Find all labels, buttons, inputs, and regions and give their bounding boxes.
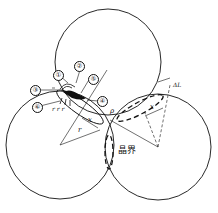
callout-1: ① bbox=[53, 70, 64, 81]
sintering-diagram: ① ② ③ ④ ⑤ ⑥ ρ x x r r r r ΔL 晶界 bbox=[0, 0, 218, 213]
x-left-symbol: x bbox=[88, 117, 92, 124]
callout-6: ⑥ bbox=[32, 102, 43, 113]
delta-l-symbol: ΔL bbox=[173, 82, 181, 88]
callout-4: ④ bbox=[97, 96, 108, 107]
callout-2: ② bbox=[74, 61, 85, 72]
rho-symbol: ρ bbox=[110, 108, 114, 115]
r-radius-symbol: r bbox=[78, 127, 81, 134]
r-small-symbols: r r r bbox=[52, 106, 64, 112]
grain-boundary-label: 晶界 bbox=[118, 146, 136, 155]
callout-3: ③ bbox=[30, 85, 41, 96]
callout-5: ⑤ bbox=[88, 74, 99, 85]
grain-boundary bbox=[105, 135, 113, 169]
x-right-symbol: x bbox=[150, 104, 154, 111]
